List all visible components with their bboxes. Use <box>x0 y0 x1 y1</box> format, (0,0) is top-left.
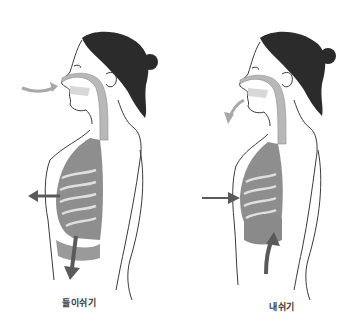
exhale-illustration <box>182 0 363 300</box>
neck-back <box>118 100 141 160</box>
hair-bun <box>320 48 336 64</box>
exhale-caption: 내쉬기 <box>269 300 295 313</box>
arm <box>306 150 321 300</box>
airway <box>240 75 286 144</box>
eye <box>252 67 259 70</box>
face-outline <box>62 40 92 124</box>
inhale-illustration <box>0 0 181 300</box>
eye <box>74 65 81 68</box>
ear <box>106 72 116 86</box>
inhale-figure: 들이쉬기 <box>0 0 181 327</box>
exhale-figure: 내쉬기 <box>182 0 363 327</box>
airway <box>62 73 108 140</box>
inhale-caption: 들이쉬기 <box>62 296 96 309</box>
hair <box>260 32 325 116</box>
hair-bun <box>142 54 158 70</box>
torso-back <box>294 160 316 290</box>
chest-in-arrow-icon <box>202 192 240 204</box>
diaphragm <box>56 240 100 261</box>
ear <box>282 72 292 86</box>
mouth-cavity <box>248 88 268 98</box>
air-out-arrow-icon <box>224 100 244 124</box>
arm <box>128 150 143 300</box>
mouth-cavity <box>70 86 90 96</box>
chest-out-arrow-icon <box>28 190 60 202</box>
air-in-arrow-icon <box>22 82 58 92</box>
face-outline <box>240 42 270 126</box>
neck-back <box>294 100 317 160</box>
